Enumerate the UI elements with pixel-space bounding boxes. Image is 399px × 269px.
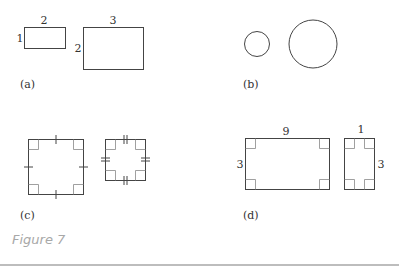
square-single-ticks (29, 140, 84, 195)
dim-label: 2 (41, 14, 48, 27)
dim-label: 3 (237, 158, 244, 171)
dim-label: 3 (378, 158, 385, 171)
rectangle-2-by-1 (25, 28, 66, 49)
rectangle-9-by-3 (246, 139, 330, 190)
figure-7: 2 1 3 2 9 3 1 3 (a) (b) (c) (d) (0, 0, 399, 269)
dim-label: 1 (358, 123, 365, 136)
large-circle (289, 20, 337, 68)
divider (0, 264, 399, 266)
rectangle-3-by-2 (84, 28, 144, 70)
dim-label: 3 (110, 14, 117, 27)
panel-label-a: (a) (20, 78, 35, 91)
panel-label-d: (d) (243, 209, 259, 222)
panel-label-c: (c) (20, 209, 35, 222)
square-double-ticks (106, 140, 146, 181)
dim-label: 9 (283, 125, 290, 138)
panel-label-b: (b) (243, 78, 259, 91)
tick-marks (24, 135, 150, 199)
rectangle-1-by-3 (345, 139, 375, 190)
dim-label: 2 (75, 42, 82, 55)
figure-caption: Figure 7 (12, 232, 65, 247)
dim-label: 1 (17, 32, 24, 45)
small-circle (245, 32, 270, 57)
